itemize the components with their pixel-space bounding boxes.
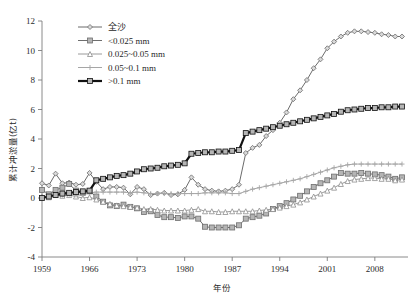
data-point-marker (257, 128, 262, 133)
data-point-marker (393, 104, 398, 109)
data-point-marker (366, 106, 371, 111)
x-tick-label: 1966 (81, 264, 100, 274)
data-point-marker (400, 104, 405, 109)
data-point-marker (298, 193, 303, 198)
data-point-marker (236, 148, 241, 153)
y-tick-label: 12 (26, 16, 35, 26)
data-point-marker (67, 181, 72, 186)
data-point-marker (155, 212, 160, 217)
data-point-marker (169, 215, 174, 220)
x-tick-label: 1973 (128, 264, 147, 274)
data-point-marker (107, 175, 112, 180)
data-point-marker (182, 161, 187, 166)
data-point-marker (223, 149, 228, 154)
x-tick-label: 1994 (271, 264, 290, 274)
data-point-marker (175, 162, 180, 167)
data-point-marker (304, 117, 309, 122)
data-point-marker (114, 173, 119, 178)
y-tick-label: 10 (26, 46, 36, 56)
data-point-marker (372, 106, 377, 111)
data-point-marker (169, 163, 174, 168)
legend-label: <0.025 mm (108, 36, 150, 46)
y-tick-label: 6 (31, 105, 36, 115)
data-point-marker (359, 170, 364, 175)
data-point-marker (379, 105, 384, 110)
data-point-marker (318, 181, 323, 186)
data-point-marker (338, 109, 343, 114)
y-tick-label: 8 (31, 75, 36, 85)
data-point-marker (216, 225, 221, 230)
y-tick-label: 2 (31, 164, 36, 174)
data-point-marker (87, 188, 92, 193)
data-point-marker (250, 129, 255, 134)
data-point-marker (203, 150, 208, 155)
data-point-marker (128, 171, 133, 176)
data-point-marker (277, 123, 282, 128)
x-tick-label: 2001 (318, 264, 336, 274)
chart-container: -4-2024681012 19591966197319801987199420… (0, 0, 414, 300)
data-point-marker (189, 214, 194, 219)
data-point-marker (209, 150, 214, 155)
data-point-marker (196, 151, 201, 156)
data-point-marker (243, 216, 248, 221)
data-point-marker (311, 116, 316, 121)
data-point-marker (345, 108, 350, 113)
data-point-marker (332, 111, 337, 116)
data-point-marker (101, 176, 106, 181)
data-point-marker (67, 190, 72, 195)
y-tick-label: -4 (28, 252, 36, 262)
data-point-marker (80, 189, 85, 194)
data-point-marker (325, 113, 330, 118)
legend-label: 0.05~0.1 mm (108, 63, 156, 73)
data-point-marker (40, 196, 45, 201)
data-point-marker (352, 171, 357, 176)
data-point-marker (209, 225, 214, 230)
data-point-marker (196, 216, 201, 221)
data-point-marker (243, 131, 248, 136)
data-point-marker (189, 151, 194, 156)
x-tick-label: 2008 (366, 264, 385, 274)
data-point-marker (257, 213, 262, 218)
cumulative-scour-deposition-line-chart: -4-2024681012 19591966197319801987199420… (0, 0, 414, 300)
data-point-marker (203, 224, 208, 229)
data-point-marker (60, 185, 65, 190)
data-point-marker (88, 79, 93, 84)
x-tick-label: 1980 (176, 264, 195, 274)
data-point-marker (318, 114, 323, 119)
data-point-marker (162, 215, 167, 220)
data-point-marker (148, 166, 153, 171)
data-point-marker (94, 178, 99, 183)
legend-label: >0.1 mm (108, 76, 141, 86)
data-point-marker (291, 197, 296, 202)
data-point-marker (175, 215, 180, 220)
data-point-marker (162, 164, 167, 169)
data-point-marker (291, 120, 296, 125)
data-point-marker (264, 126, 269, 131)
data-point-marker (88, 38, 93, 43)
data-point-marker (311, 184, 316, 189)
data-point-marker (386, 105, 391, 110)
data-point-marker (338, 170, 343, 175)
data-point-marker (73, 190, 78, 195)
data-point-marker (230, 148, 235, 153)
data-point-marker (359, 106, 364, 111)
x-tick-label: 1959 (33, 264, 52, 274)
y-tick-label: 0 (31, 193, 36, 203)
x-axis-title: 年份 (213, 283, 231, 293)
data-point-marker (352, 107, 357, 112)
data-point-marker (60, 191, 65, 196)
data-point-marker (155, 165, 160, 170)
data-point-marker (332, 174, 337, 179)
data-point-marker (46, 194, 51, 199)
data-point-marker (53, 187, 58, 192)
x-tick-label: 1987 (223, 264, 242, 274)
data-point-marker (121, 173, 126, 178)
data-point-marker (141, 167, 146, 172)
legend-label: 0.025~0.05 mm (108, 49, 165, 59)
data-point-marker (230, 225, 235, 230)
data-point-marker (345, 171, 350, 176)
data-point-marker (223, 225, 228, 230)
data-point-marker (304, 189, 309, 194)
data-point-marker (250, 215, 255, 220)
data-point-marker (325, 178, 330, 183)
